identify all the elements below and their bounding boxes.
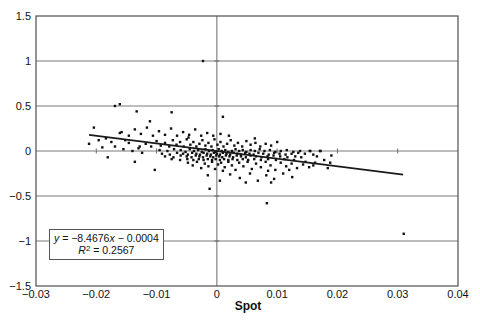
- data-point: [264, 161, 266, 163]
- data-point: [217, 163, 219, 165]
- data-point: [114, 145, 116, 147]
- data-point: [245, 181, 247, 183]
- data-point: [173, 148, 175, 150]
- data-point: [233, 144, 235, 146]
- data-point: [140, 133, 142, 135]
- data-point: [141, 152, 143, 154]
- data-point: [155, 140, 157, 142]
- data-point: [213, 138, 215, 140]
- data-point: [128, 142, 130, 144]
- data-point: [285, 165, 287, 167]
- data-point: [237, 142, 239, 144]
- data-point: [249, 149, 251, 151]
- data-point: [110, 141, 112, 143]
- trendline-equation-box: y = −8.4676x − 0.0004 R2 = 0.2567: [49, 229, 164, 260]
- data-point: [279, 155, 281, 157]
- data-point: [202, 159, 204, 161]
- data-point: [255, 162, 257, 164]
- data-point: [176, 135, 178, 137]
- data-point: [290, 162, 292, 164]
- data-point: [214, 168, 216, 170]
- data-point: [186, 158, 188, 160]
- data-point: [179, 159, 181, 161]
- data-point: [264, 143, 266, 145]
- data-point: [257, 180, 259, 182]
- data-point: [254, 137, 256, 139]
- data-point: [246, 161, 248, 163]
- data-point: [170, 111, 172, 113]
- data-point: [260, 159, 262, 161]
- data-point: [209, 155, 211, 157]
- data-point: [161, 153, 163, 155]
- data-point: [182, 153, 184, 155]
- data-point: [290, 153, 292, 155]
- y-tick-label: −0.5: [5, 189, 31, 203]
- data-point: [226, 143, 228, 145]
- data-point: [179, 141, 181, 143]
- data-point: [224, 149, 226, 151]
- data-point: [244, 152, 246, 154]
- data-point: [217, 148, 219, 150]
- data-point: [223, 158, 225, 160]
- data-point: [234, 148, 236, 150]
- data-point: [191, 152, 193, 154]
- data-point: [218, 155, 220, 157]
- data-point: [154, 169, 156, 171]
- data-point: [219, 159, 221, 161]
- data-point: [228, 135, 230, 137]
- data-point: [286, 149, 288, 151]
- data-point: [220, 162, 222, 164]
- data-point: [114, 105, 116, 107]
- data-point: [269, 149, 271, 151]
- data-point: [267, 170, 269, 172]
- data-point: [135, 110, 137, 112]
- data-point: [192, 159, 194, 161]
- data-point: [234, 169, 236, 171]
- data-point: [202, 156, 204, 158]
- data-point: [242, 165, 244, 167]
- data-point: [236, 159, 238, 161]
- data-point: [150, 145, 152, 147]
- data-point: [286, 156, 288, 158]
- data-point: [131, 150, 133, 152]
- data-point: [188, 134, 190, 136]
- x-tick-label: −0.03: [14, 288, 58, 301]
- data-point: [134, 128, 136, 130]
- data-point: [270, 144, 272, 146]
- data-point: [238, 150, 240, 152]
- x-tick-label: 0.03: [376, 288, 420, 301]
- data-point: [213, 152, 215, 154]
- data-point: [119, 132, 121, 134]
- data-point: [215, 154, 217, 156]
- data-point: [403, 233, 405, 235]
- data-point: [214, 158, 216, 160]
- data-point: [309, 150, 311, 152]
- data-point: [196, 161, 198, 163]
- data-point: [101, 146, 103, 148]
- data-point: [259, 145, 261, 147]
- data-point: [296, 167, 298, 169]
- data-point: [198, 155, 200, 157]
- scatter-plot-canvas: [0, 0, 480, 322]
- data-point: [219, 141, 221, 143]
- chart-container: 1.510.50−0.5−1−1.5 −0.03−0.02−0.0100.010…: [0, 0, 480, 322]
- data-point: [207, 165, 209, 167]
- data-point: [270, 181, 272, 183]
- data-point: [207, 158, 209, 160]
- data-point: [319, 150, 321, 152]
- data-point: [316, 155, 318, 157]
- x-tick-label: 0.02: [315, 288, 359, 301]
- data-point: [170, 127, 172, 129]
- data-point: [229, 173, 231, 175]
- data-point: [190, 156, 192, 158]
- data-point: [194, 128, 196, 130]
- data-point: [240, 155, 242, 157]
- data-point: [219, 133, 221, 135]
- data-point: [260, 166, 262, 168]
- data-point: [241, 145, 243, 147]
- data-point: [207, 174, 209, 176]
- data-point: [302, 163, 304, 165]
- y-tick-label: 0.5: [5, 99, 31, 113]
- data-point: [242, 158, 244, 160]
- data-point: [231, 158, 233, 160]
